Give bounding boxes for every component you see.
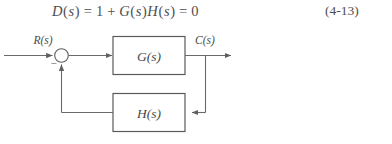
summing-junction-negative-sign: − [50,57,56,69]
input-signal-label: R(s) [32,34,52,47]
block-diagram-canvas: R(s) − G(s) C(s) H(s) [0,0,392,144]
summing-junction [55,49,69,63]
output-signal-label: C(s) [195,34,215,47]
forward-block-label: G(s) [137,49,161,64]
feedback-block-label: H(s) [136,106,161,121]
figure-block-diagram: D(s) = 1 + G(s)H(s) = 0 (4-13) R(s) − G(… [0,0,392,144]
